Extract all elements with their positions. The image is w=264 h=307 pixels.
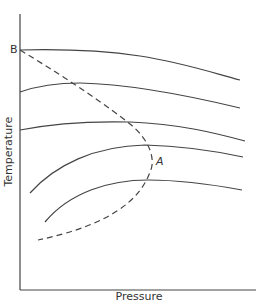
x-axis-label: Pressure [0,290,264,303]
y-axis-label: Temperature [2,127,15,187]
pressure-temperature-diagram [0,0,264,307]
point-a-label: A [156,155,164,168]
point-b-label: B [10,43,18,56]
curve-3 [20,122,245,141]
curve-1 [20,50,240,80]
curve-4 [30,145,243,193]
dashed-boundary-curve [20,50,152,240]
curve-2 [20,83,240,108]
